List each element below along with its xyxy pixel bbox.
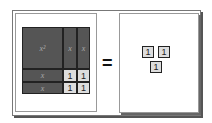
x-tile-horizontal: x <box>22 82 63 94</box>
unit-tile: 1 <box>77 82 90 94</box>
x-label: x <box>41 84 45 93</box>
x-squared-label: x² <box>40 44 46 53</box>
x-label: x <box>82 44 86 53</box>
one-label: 1 <box>145 47 150 57</box>
unit-tile: 1 <box>158 46 170 58</box>
one-label: 1 <box>153 62 158 72</box>
equals-sign: = <box>102 56 113 70</box>
unit-tile: 1 <box>77 69 90 82</box>
x-label: x <box>41 71 45 80</box>
one-label: 1 <box>81 83 86 93</box>
x-label: x <box>68 44 72 53</box>
one-label: 1 <box>161 47 166 57</box>
x-tile-vertical: x <box>77 27 90 69</box>
unit-tile: 1 <box>150 61 162 73</box>
unit-tile: 1 <box>63 82 77 94</box>
unit-tile: 1 <box>63 69 77 82</box>
one-label: 1 <box>81 71 86 81</box>
x-squared-tile: x² <box>22 27 63 69</box>
unit-tile: 1 <box>142 46 154 58</box>
one-label: 1 <box>67 83 72 93</box>
x-tile-vertical: x <box>63 27 77 69</box>
one-label: 1 <box>67 71 72 81</box>
x-tile-horizontal: x <box>22 69 63 82</box>
